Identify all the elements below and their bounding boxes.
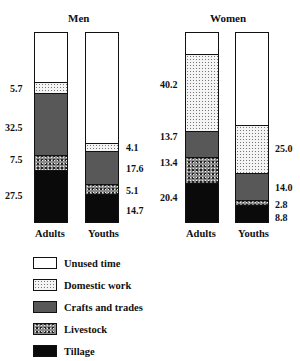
- segment-unused: [86, 32, 118, 143]
- segment-livestock: [86, 184, 118, 194]
- value-women-youths-livestock: 2.8: [275, 199, 288, 210]
- xlabel-men-adults: Adults: [35, 228, 65, 239]
- segment-tillage: [186, 183, 218, 222]
- legend-swatch-unused: [33, 257, 57, 269]
- value-men-adults-domestic: 5.7: [10, 83, 23, 94]
- value-men-youths-crafts: 17.6: [126, 163, 144, 174]
- legend-label-unused: Unused time: [64, 258, 120, 269]
- legend-item-livestock: Livestock: [33, 318, 143, 340]
- legend: Unused time Domestic work Crafts and tra…: [33, 252, 143, 361]
- value-men-youths-tillage: 14.7: [126, 205, 144, 216]
- xlabel-women-youths: Youths: [238, 228, 269, 239]
- bar-women-adults: [185, 32, 219, 223]
- segment-crafts: [236, 173, 268, 200]
- legend-label-crafts: Crafts and trades: [64, 302, 143, 313]
- value-women-adults-domestic: 40.2: [160, 79, 178, 90]
- bar-women-youths: [235, 32, 269, 223]
- segment-unused: [186, 32, 218, 54]
- bar-men-youths: [85, 32, 119, 223]
- value-men-youths-domestic: 4.1: [126, 142, 139, 153]
- value-women-adults-crafts: 13.7: [160, 131, 178, 142]
- segment-crafts: [186, 131, 218, 157]
- legend-swatch-tillage: [33, 345, 57, 357]
- segment-domestic: [236, 125, 268, 173]
- legend-label-livestock: Livestock: [64, 324, 107, 335]
- segment-tillage: [35, 170, 67, 223]
- segment-tillage: [236, 205, 268, 222]
- segment-domestic: [186, 54, 218, 131]
- segment-domestic: [86, 143, 118, 151]
- value-women-adults-livestock: 13.4: [160, 157, 178, 168]
- value-women-adults-tillage: 20.4: [160, 192, 178, 203]
- panel-title-women: Women: [210, 12, 246, 24]
- cropped-caption-text: [0, 0, 300, 3]
- value-men-youths-livestock: 5.1: [126, 185, 139, 196]
- value-women-youths-tillage: 8.8: [275, 212, 288, 223]
- legend-item-unused: Unused time: [33, 252, 143, 274]
- legend-label-domestic: Domestic work: [64, 280, 131, 291]
- segment-livestock: [186, 157, 218, 183]
- legend-label-tillage: Tillage: [64, 346, 95, 357]
- xlabel-men-youths: Youths: [88, 228, 119, 239]
- segment-livestock: [35, 155, 67, 169]
- legend-item-domestic: Domestic work: [33, 274, 143, 296]
- legend-swatch-livestock: [33, 323, 57, 335]
- legend-item-crafts: Crafts and trades: [33, 296, 143, 318]
- segment-domestic: [35, 82, 67, 93]
- value-women-youths-crafts: 14.0: [275, 182, 293, 193]
- legend-swatch-crafts: [33, 301, 57, 313]
- xlabel-women-adults: Adults: [186, 228, 216, 239]
- bar-men-adults: [34, 32, 68, 223]
- legend-item-tillage: Tillage: [33, 340, 143, 361]
- legend-swatch-domestic: [33, 279, 57, 291]
- value-men-adults-tillage: 27.5: [5, 190, 23, 201]
- value-men-adults-crafts: 32.5: [5, 122, 23, 133]
- segment-crafts: [86, 151, 118, 185]
- value-women-youths-domestic: 25.0: [275, 143, 293, 154]
- segment-unused: [236, 32, 268, 125]
- segment-unused: [35, 32, 67, 82]
- segment-crafts: [35, 93, 67, 155]
- value-men-adults-livestock: 7.5: [10, 154, 23, 165]
- panel-title-men: Men: [68, 12, 89, 24]
- segment-tillage: [86, 194, 118, 222]
